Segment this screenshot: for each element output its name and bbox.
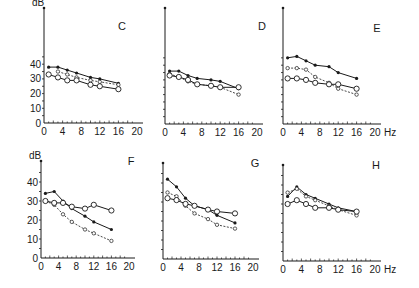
x-tick-label: 16 bbox=[113, 126, 125, 137]
series-open-circle-solid bbox=[165, 196, 238, 216]
panel-f: 010203040dB048121620F bbox=[27, 150, 135, 272]
filled-dot-marker-icon bbox=[175, 185, 178, 188]
open-circle-marker-icon bbox=[88, 82, 93, 87]
open-circle-marker-icon bbox=[46, 72, 51, 77]
x-tick-label: 12 bbox=[88, 261, 100, 272]
x-unit-label: Hz bbox=[384, 127, 396, 138]
small-open-marker-icon bbox=[314, 199, 317, 202]
open-circle-marker-icon bbox=[65, 78, 70, 83]
small-open-marker-icon bbox=[206, 217, 209, 220]
small-open-marker-icon bbox=[295, 187, 298, 190]
series-open-circle-solid bbox=[43, 198, 114, 213]
open-circle-marker-icon bbox=[208, 83, 213, 88]
small-open-marker-icon bbox=[166, 191, 169, 194]
open-circle-marker-icon bbox=[354, 209, 359, 214]
x-tick-label: 8 bbox=[317, 127, 323, 138]
open-circle-marker-icon bbox=[313, 80, 318, 85]
open-circle-marker-icon bbox=[195, 82, 200, 87]
y-tick-label: 20 bbox=[30, 88, 42, 99]
open-circle-marker-icon bbox=[116, 87, 121, 92]
y-tick-label: 30 bbox=[30, 73, 42, 84]
small-open-marker-icon bbox=[98, 80, 101, 83]
open-circle-marker-icon bbox=[52, 200, 57, 205]
series-filled-dot-solid bbox=[44, 190, 113, 231]
open-circle-marker-icon bbox=[60, 200, 65, 205]
x-unit-label: Hz bbox=[384, 264, 396, 275]
filled-dot-marker-icon bbox=[196, 77, 199, 80]
filled-dot-marker-icon bbox=[166, 178, 169, 181]
open-circle-marker-icon bbox=[167, 73, 172, 78]
x-tick-label: 16 bbox=[351, 264, 363, 275]
open-circle-marker-icon bbox=[185, 77, 190, 82]
x-tick-label: 20 bbox=[251, 127, 263, 138]
open-circle-marker-icon bbox=[285, 76, 290, 81]
open-circle-marker-icon bbox=[183, 201, 188, 206]
open-circle-marker-icon bbox=[336, 207, 341, 212]
filled-dot-marker-icon bbox=[66, 68, 69, 71]
open-circle-marker-icon bbox=[174, 198, 179, 203]
filled-dot-marker-icon bbox=[53, 190, 56, 193]
x-tick-label: 0 bbox=[280, 264, 286, 275]
filled-dot-marker-icon bbox=[75, 71, 78, 74]
filled-dot-marker-icon bbox=[92, 220, 95, 223]
series-open-circle-solid bbox=[285, 76, 359, 91]
y-tick-label: 40 bbox=[30, 59, 42, 70]
x-tick-label: 20 bbox=[123, 261, 135, 272]
filled-dot-marker-icon bbox=[337, 71, 340, 74]
x-tick-label: 0 bbox=[160, 262, 166, 273]
small-open-marker-icon bbox=[237, 93, 240, 96]
panel-title: F bbox=[128, 155, 135, 167]
small-open-marker-icon bbox=[70, 220, 73, 223]
small-open-marker-icon bbox=[66, 73, 69, 76]
open-circle-marker-icon bbox=[236, 85, 241, 90]
small-open-marker-icon bbox=[56, 70, 59, 73]
x-tick-label: 4 bbox=[56, 261, 62, 272]
panel-c: 010203040dB048121620C bbox=[30, 0, 143, 137]
small-open-marker-icon bbox=[304, 195, 307, 198]
filled-dot-marker-icon bbox=[295, 55, 298, 58]
filled-dot-marker-icon bbox=[186, 74, 189, 77]
panel-d: 048121620D bbox=[162, 7, 266, 138]
open-circle-marker-icon bbox=[303, 201, 308, 206]
open-circle-marker-icon bbox=[205, 207, 210, 212]
x-tick-label: 12 bbox=[333, 264, 345, 275]
x-tick-label: 4 bbox=[299, 127, 305, 138]
x-tick-label: 4 bbox=[299, 264, 305, 275]
x-tick-label: 0 bbox=[41, 126, 47, 137]
y-axis-tip-icon bbox=[162, 162, 165, 165]
filled-dot-marker-icon bbox=[286, 195, 289, 198]
open-circle-marker-icon bbox=[294, 198, 299, 203]
filled-dot-marker-icon bbox=[83, 215, 86, 218]
open-circle-marker-icon bbox=[218, 85, 223, 90]
small-open-marker-icon bbox=[83, 228, 86, 231]
panel-title: G bbox=[251, 157, 260, 169]
open-circle-marker-icon bbox=[294, 76, 299, 81]
filled-dot-marker-icon bbox=[209, 78, 212, 81]
filled-dot-marker-icon bbox=[304, 59, 307, 62]
y-axis-tip-icon bbox=[164, 7, 167, 10]
open-circle-marker-icon bbox=[176, 74, 181, 79]
filled-dot-marker-icon bbox=[327, 65, 330, 68]
open-circle-marker-icon bbox=[354, 86, 359, 91]
small-open-marker-icon bbox=[295, 66, 298, 69]
y-tick-label: 40 bbox=[27, 177, 39, 188]
small-open-marker-icon bbox=[89, 79, 92, 82]
series-open-circle-solid bbox=[285, 198, 359, 215]
small-open-marker-icon bbox=[355, 93, 358, 96]
filled-dot-marker-icon bbox=[177, 69, 180, 72]
small-open-marker-icon bbox=[117, 83, 120, 86]
panel-g: 048121620G bbox=[160, 157, 259, 273]
filled-dot-marker-icon bbox=[110, 228, 113, 231]
filled-dot-marker-icon bbox=[233, 221, 236, 224]
small-open-marker-icon bbox=[92, 232, 95, 235]
x-tick-label: 20 bbox=[131, 126, 143, 137]
filled-dot-marker-icon bbox=[355, 77, 358, 80]
open-circle-marker-icon bbox=[326, 205, 331, 210]
open-circle-marker-icon bbox=[313, 205, 318, 210]
x-tick-label: 16 bbox=[233, 127, 245, 138]
x-tick-label: 20 bbox=[247, 262, 259, 273]
y-axis-tip-icon bbox=[282, 7, 285, 10]
panel-e: 048121620HzE bbox=[280, 7, 396, 138]
filled-dot-marker-icon bbox=[184, 197, 187, 200]
open-circle-marker-icon bbox=[109, 208, 114, 213]
